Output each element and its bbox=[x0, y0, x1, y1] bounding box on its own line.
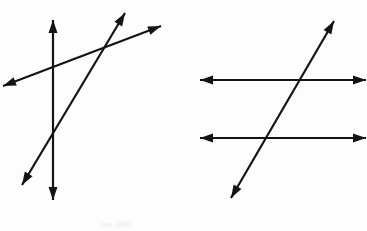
transversal-line bbox=[231, 21, 334, 198]
arrowhead-icon bbox=[200, 134, 213, 143]
arrowhead-icon bbox=[22, 172, 33, 185]
arrowhead-icon bbox=[3, 77, 17, 86]
figure-parallel-lines-with-transversal bbox=[200, 21, 366, 198]
arrowhead-icon bbox=[353, 76, 366, 85]
lines-diagram bbox=[0, 0, 367, 231]
arrowhead-icon bbox=[200, 76, 213, 85]
arrowhead-icon bbox=[49, 187, 58, 200]
arrowhead-icon bbox=[49, 20, 58, 33]
arrowhead-icon bbox=[324, 21, 334, 34]
arrowhead-icon bbox=[147, 26, 161, 35]
arrowhead-icon bbox=[114, 13, 125, 26]
arrowhead-icon bbox=[353, 134, 366, 143]
arrowhead-icon bbox=[231, 185, 241, 198]
diagram-canvas bbox=[0, 0, 367, 231]
steep-rising-line bbox=[22, 13, 125, 185]
figure-intersecting-lines bbox=[3, 13, 161, 200]
cropped-label-remnant bbox=[116, 222, 131, 227]
cropped-label-remnant bbox=[101, 223, 112, 227]
shallow-rising-line bbox=[3, 26, 161, 86]
